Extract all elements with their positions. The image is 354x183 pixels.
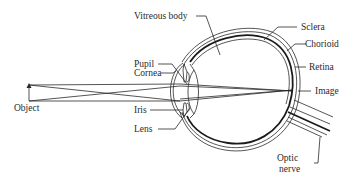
- label-sclera: Sclera: [301, 22, 326, 32]
- object-arrow: [27, 83, 32, 101]
- leader-lines: [150, 16, 320, 163]
- label-image: Image: [315, 86, 339, 96]
- label-lens: Lens: [134, 124, 153, 134]
- eye-diagram: Vitreous body Sclera Chorioid Retina Pup…: [0, 0, 354, 183]
- label-object: Object: [14, 103, 40, 113]
- label-retina: Retina: [309, 62, 335, 72]
- eyeball: [180, 28, 300, 151]
- label-iris: Iris: [134, 105, 147, 115]
- lens: [188, 64, 199, 118]
- label-cornea: Cornea: [134, 68, 162, 78]
- label-optic: Optic: [277, 153, 298, 163]
- light-rays: [29, 84, 293, 101]
- label-nerve: nerve: [279, 164, 300, 174]
- label-chorioid: Chorioid: [305, 39, 339, 49]
- label-vitreous-body: Vitreous body: [134, 11, 188, 21]
